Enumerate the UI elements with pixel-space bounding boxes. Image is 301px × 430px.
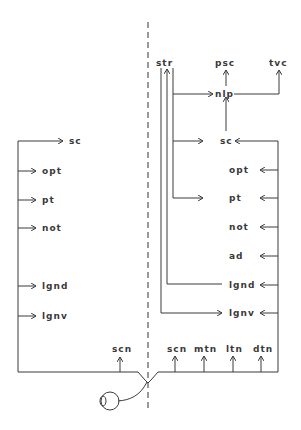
left-not-label: not xyxy=(42,223,62,233)
pathway-diagram: sc opt pt not lgnd lgnv scn xyxy=(0,0,301,430)
left-sc-label: sc xyxy=(69,136,82,146)
right-scn-label: scn xyxy=(167,344,187,354)
right-pt-label: pt xyxy=(229,193,242,203)
left-opt-label: opt xyxy=(42,166,62,176)
tvc-label: tvc xyxy=(269,58,288,68)
nlp-label: nlp xyxy=(215,89,234,99)
right-dtn-label: dtn xyxy=(253,344,273,354)
right-hemisphere: str psc tvc nlp sc opt pt not ad lgnd lg… xyxy=(156,58,288,372)
right-sc-label: sc xyxy=(220,136,233,146)
left-pt-label: pt xyxy=(42,195,55,205)
eye-icon xyxy=(101,392,119,410)
left-hemisphere: sc opt pt not lgnd lgnv scn xyxy=(18,136,145,380)
left-lgnd-label: lgnd xyxy=(42,281,68,291)
right-mtn-label: mtn xyxy=(194,344,217,354)
eye-and-optic-nerve xyxy=(100,372,158,410)
left-lgnv-label: lgnv xyxy=(42,311,68,321)
psc-label: psc xyxy=(215,58,235,68)
right-opt-label: opt xyxy=(229,165,249,175)
right-ad-label: ad xyxy=(229,251,244,261)
right-lgnv-label: lgnv xyxy=(229,308,255,318)
right-not-label: not xyxy=(229,222,249,232)
right-ltn-label: ltn xyxy=(226,344,243,354)
str-label: str xyxy=(156,58,173,68)
left-scn-label: scn xyxy=(112,344,132,354)
right-lgnd-label: lgnd xyxy=(229,280,255,290)
